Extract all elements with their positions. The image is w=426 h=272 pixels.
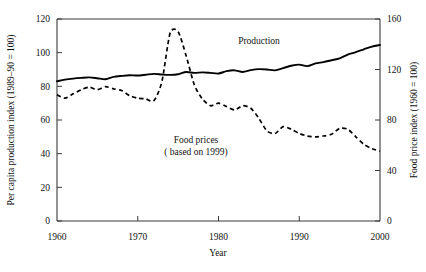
x-tick-label: 2000 bbox=[371, 232, 390, 242]
x-axis-tick-labels: 19601970198019902000 bbox=[48, 232, 390, 242]
right-tick-label: 120 bbox=[387, 65, 402, 75]
left-axis-title: Per capita production index (1989–90 = 1… bbox=[6, 34, 17, 205]
x-axis-title: Year bbox=[209, 248, 227, 258]
right-tick-label: 0 bbox=[387, 216, 392, 226]
food-prices-series-sublabel: ( based on 1999) bbox=[164, 147, 228, 158]
left-tick-label: 60 bbox=[41, 115, 51, 125]
left-tick-label: 20 bbox=[41, 183, 51, 193]
left-axis-tick-labels: 020406080100120 bbox=[36, 14, 51, 226]
right-axis-ticks bbox=[375, 19, 380, 221]
x-tick-label: 1990 bbox=[290, 232, 309, 242]
chart-figure: 020406080100120 04080120160 196019701980… bbox=[0, 0, 426, 272]
left-tick-label: 100 bbox=[36, 48, 51, 58]
line-chart: 020406080100120 04080120160 196019701980… bbox=[0, 0, 426, 272]
right-tick-label: 160 bbox=[387, 14, 402, 24]
right-tick-label: 40 bbox=[387, 166, 397, 176]
left-tick-label: 40 bbox=[41, 149, 51, 159]
x-tick-label: 1980 bbox=[209, 232, 228, 242]
x-tick-label: 1970 bbox=[128, 232, 147, 242]
left-tick-label: 0 bbox=[45, 216, 50, 226]
series-line-food-prices bbox=[57, 29, 380, 151]
right-axis-title: Food price index (1960 = 100) bbox=[409, 62, 420, 178]
axes-frame bbox=[57, 19, 380, 221]
right-tick-label: 80 bbox=[387, 115, 397, 125]
x-tick-label: 1960 bbox=[48, 232, 67, 242]
left-axis-ticks bbox=[57, 19, 62, 221]
right-axis-tick-labels: 04080120160 bbox=[387, 14, 402, 226]
left-tick-label: 80 bbox=[41, 82, 51, 92]
food-prices-series-label: Food prices bbox=[174, 135, 219, 145]
left-tick-label: 120 bbox=[36, 14, 51, 24]
series-line-production bbox=[57, 45, 380, 81]
x-axis-ticks bbox=[138, 216, 300, 221]
production-series-label: Production bbox=[238, 36, 280, 46]
